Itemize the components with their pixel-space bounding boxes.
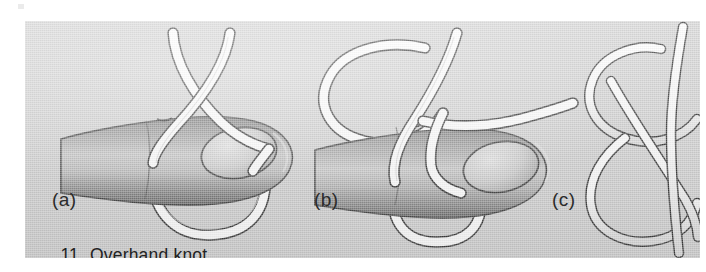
figure-number: 11 (60, 245, 79, 258)
figure-caption: 11Overhand knot (30, 224, 207, 258)
figure-root: (a) (b) (c) 11Overhand knot (0, 0, 706, 272)
panel-label-b: (b) (314, 189, 338, 211)
rope-crossing-strand-c (611, 81, 698, 237)
panel-a-artwork (61, 33, 292, 235)
panel-b-artwork (315, 33, 573, 242)
panel-label-c: (c) (552, 189, 575, 211)
knot-illustration-artwork (25, 21, 700, 258)
illustration-plate: (a) (b) (c) 11Overhand knot (25, 21, 700, 258)
scan-artifact-speck (18, 4, 24, 9)
figure-caption-text: Overhand knot (90, 245, 207, 258)
panel-label-a: (a) (52, 189, 76, 211)
panel-c-artwork (589, 27, 698, 253)
